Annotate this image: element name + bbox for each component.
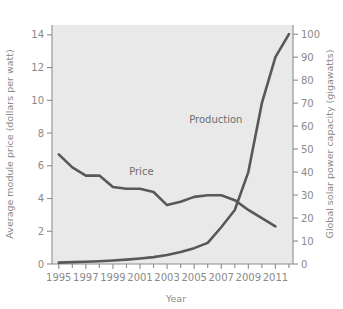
y-right-tick-label: 100 <box>301 29 320 40</box>
y-left-tick-label: 6 <box>38 160 44 171</box>
y-right-tick-label: 0 <box>301 259 307 270</box>
y-left-tick-label: 2 <box>38 226 44 237</box>
y-left-tick-label: 10 <box>31 95 44 106</box>
y-axis-right-title: Global solar power capacity (gigawatts) <box>324 50 335 239</box>
y-right-tick-label: 20 <box>301 213 314 224</box>
y-left-tick-label: 8 <box>38 128 44 139</box>
x-axis-tick-label: 2009 <box>236 272 261 283</box>
y-right-tick-label: 30 <box>301 190 314 201</box>
x-axis-title: Year <box>165 293 186 304</box>
y-right-tick-label: 10 <box>301 236 314 247</box>
series-label-production: Production <box>189 114 242 125</box>
y-left-tick-label: 14 <box>31 29 44 40</box>
y-right-tick-label: 90 <box>301 52 314 63</box>
y-left-tick-label: 4 <box>38 193 44 204</box>
y-right-tick-label: 50 <box>301 144 314 155</box>
y-left-tick-label: 12 <box>31 62 44 73</box>
x-axis-tick-label: 2003 <box>154 272 179 283</box>
y-right-tick-label: 80 <box>301 75 314 86</box>
x-axis-tick-label: 1997 <box>73 272 98 283</box>
y-right-tick-label: 70 <box>301 98 314 109</box>
x-axis-tick-label: 1999 <box>100 272 125 283</box>
x-axis-tick-label: 2007 <box>209 272 234 283</box>
x-axis-tick-label: 2005 <box>181 272 206 283</box>
y-left-tick-label: 0 <box>38 259 44 270</box>
x-axis-tick-label: 2001 <box>127 272 152 283</box>
y-right-tick-label: 40 <box>301 167 314 178</box>
y-right-tick-label: 60 <box>301 121 314 132</box>
series-label-price: Price <box>129 166 153 177</box>
x-axis-tick-label: 1995 <box>46 272 71 283</box>
plot-area-background <box>52 25 293 264</box>
x-axis-tick-label: 2011 <box>263 272 288 283</box>
y-axis-left-title: Average module price (dollars per watt) <box>4 49 15 238</box>
chart-svg: 02468101214 0102030405060708090100 19951… <box>0 0 343 309</box>
solar-price-production-chart: 02468101214 0102030405060708090100 19951… <box>0 0 343 309</box>
